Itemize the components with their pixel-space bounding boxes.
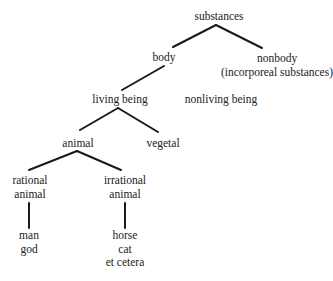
node-label: man	[19, 229, 39, 243]
node-label: rational	[12, 174, 47, 188]
node-rational-members: man god	[19, 229, 39, 256]
node-label: nonliving being	[185, 93, 258, 107]
edge-animal-irrational	[77, 151, 121, 170]
node-substances: substances	[194, 10, 243, 24]
node-vegetal: vegetal	[146, 137, 179, 151]
node-label: substances	[194, 10, 243, 24]
edge-substances-nonbody	[216, 25, 262, 48]
node-label: et cetera	[106, 256, 145, 270]
edge-animal-rational	[29, 151, 77, 170]
node-body: body	[153, 51, 176, 65]
edge-living-being-vegetal	[118, 108, 158, 132]
edge-substances-body	[173, 25, 216, 47]
node-label: cat	[106, 243, 145, 257]
node-label: horse	[106, 229, 145, 243]
node-label: nonbody	[221, 52, 333, 66]
edge-living-being-animal	[80, 108, 118, 130]
node-irrational-members: horse cat et cetera	[106, 229, 145, 270]
node-nonliving-being: nonliving being	[185, 93, 258, 107]
node-label: irrational	[104, 174, 146, 188]
node-label: animal	[12, 188, 47, 202]
node-label: vegetal	[146, 137, 179, 151]
node-label: animal	[62, 137, 93, 151]
node-irrational-animal: irrational animal	[104, 174, 146, 201]
node-sublabel: (incorporeal substances)	[221, 66, 333, 80]
node-label: living being	[92, 93, 147, 107]
edge-body-living-being	[122, 66, 164, 90]
node-rational-animal: rational animal	[12, 174, 47, 201]
node-label: animal	[104, 188, 146, 202]
node-living-being: living being	[92, 93, 147, 107]
node-label: god	[19, 243, 39, 257]
node-label: body	[153, 51, 176, 65]
node-nonbody: nonbody (incorporeal substances)	[221, 52, 333, 79]
node-animal: animal	[62, 137, 93, 151]
